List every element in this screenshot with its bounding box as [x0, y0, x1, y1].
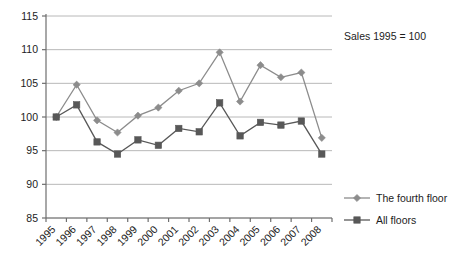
y-axis-tick-label: 105 — [20, 77, 38, 89]
data-point-marker — [135, 137, 141, 143]
data-point-marker — [176, 125, 182, 131]
data-point-marker — [278, 122, 284, 128]
y-axis-tick-label: 95 — [26, 144, 38, 156]
data-point-marker — [237, 133, 243, 139]
data-point-marker — [94, 139, 100, 145]
data-point-marker — [257, 119, 263, 125]
y-axis-tick-label: 90 — [26, 178, 38, 190]
data-point-marker — [196, 129, 202, 135]
annotation-sales-base: Sales 1995 = 100 — [344, 30, 426, 42]
data-point-marker — [73, 102, 79, 108]
data-point-marker — [155, 142, 161, 148]
sales-index-line-chart: 859095100105110115 199519961997199819992… — [0, 0, 459, 270]
chart-canvas: 859095100105110115 199519961997199819992… — [0, 0, 459, 270]
y-axis-tick-label: 110 — [21, 43, 38, 55]
legend-label: All floors — [376, 214, 416, 226]
legend-label: The fourth floor — [376, 192, 448, 204]
y-axis-tick-label: 115 — [21, 10, 38, 22]
data-point-marker — [354, 217, 360, 223]
data-point-marker — [298, 118, 304, 124]
data-point-marker — [216, 100, 222, 106]
y-axis-tick-label: 100 — [20, 111, 38, 123]
data-point-marker — [114, 151, 120, 157]
y-axis-tick-label: 85 — [26, 212, 38, 224]
data-point-marker — [319, 151, 325, 157]
data-point-marker — [53, 114, 59, 120]
